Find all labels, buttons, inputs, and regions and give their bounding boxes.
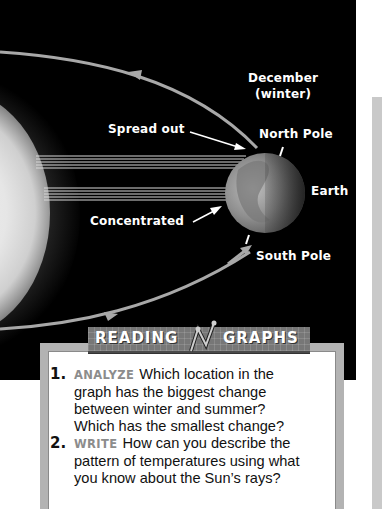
question-text-line: How can you describe the [123, 435, 291, 451]
line-graph-icon [188, 319, 222, 355]
december-winter-label: December (winter) [248, 70, 318, 102]
question-text-line: Which location in the [139, 366, 274, 382]
question-text-line: pattern of temperatures using what [74, 453, 300, 469]
north-pole-label: North Pole [259, 127, 333, 141]
sun-rays-lower [44, 188, 226, 200]
question-tag-analyze: ANALYZE [74, 368, 134, 382]
question-tag-write: WRITE [74, 437, 118, 451]
diagram-graphics [0, 0, 356, 380]
question-2: 2. WRITEHow can you describe the pattern… [50, 435, 340, 487]
concentrated-label: Concentrated [90, 214, 184, 228]
orbit-path-bottom [0, 252, 250, 329]
banner-word-reading: READING [95, 329, 178, 347]
sun-earth-diagram: December (winter) Spread out North Pole … [0, 0, 356, 380]
winter-label: (winter) [248, 86, 318, 102]
spread-out-label: Spread out [108, 122, 185, 136]
reading-graphs-banner: READING GRAPHS [88, 327, 310, 353]
question-text-line: graph has the biggest change [74, 384, 266, 400]
earth-label: Earth [311, 184, 349, 198]
sun-rays-upper [36, 156, 246, 168]
question-number: 2. [50, 435, 66, 452]
banner-word-graphs: GRAPHS [223, 329, 299, 347]
south-pole-pointer [246, 235, 249, 244]
question-list: 1. ANALYZEWhich location in the graph ha… [50, 366, 340, 487]
question-text-line: between winter and summer? [74, 401, 265, 417]
question-number: 1. [50, 366, 66, 383]
question-text-line: you know about the Sun’s rays? [74, 470, 281, 486]
spread-out-arrow [190, 132, 238, 147]
north-pole-pointer [280, 147, 283, 156]
page-margin-strip [372, 97, 382, 509]
question-text-line: Which has the smallest change? [74, 418, 284, 434]
december-label: December [248, 70, 318, 86]
orbit-arrow-bottom [104, 312, 118, 321]
earth-globe [225, 150, 310, 240]
concentrated-arrow [193, 211, 214, 222]
south-pole-label: South Pole [256, 249, 331, 263]
question-1: 1. ANALYZEWhich location in the graph ha… [50, 366, 340, 435]
